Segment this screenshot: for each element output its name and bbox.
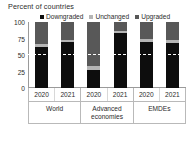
bar-segment-upgraded	[35, 22, 48, 44]
stacked-bar	[87, 22, 100, 88]
bar-segment-unchanged	[35, 44, 48, 47]
bar-segment-unchanged	[166, 40, 179, 43]
stacked-bar	[166, 22, 179, 88]
x-label-ae-2021: 2021	[107, 88, 133, 101]
bar-segment-upgraded	[114, 22, 127, 31]
legend-item-upgraded: Upgraded	[135, 13, 170, 20]
x-label-ae-2020: 2020	[80, 88, 106, 101]
y-tick-50: 50	[18, 52, 25, 59]
chart-legend: Downgraded Unchanged Upgraded	[40, 13, 170, 20]
stacked-bar	[114, 22, 127, 88]
bar-segment-unchanged	[114, 31, 127, 34]
plot-area	[28, 22, 186, 88]
legend-item-downgraded: Downgraded	[40, 13, 83, 20]
stacked-bar	[35, 22, 48, 88]
stacked-bar	[140, 22, 153, 88]
bar-segment-downgraded	[61, 42, 74, 88]
bar-segment-unchanged	[87, 66, 100, 70]
y-tick-0: 0	[21, 85, 25, 92]
y-tick-25: 25	[18, 68, 25, 75]
x-label-emdes-2020: 2020	[133, 88, 159, 101]
y-tick-100: 100	[14, 19, 25, 26]
x-axis-year-band: 2020 2021 2020 2021 2020 2021	[28, 88, 186, 102]
legend-label-upgraded: Upgraded	[141, 13, 170, 20]
group-label-emdes: EMDEs	[133, 102, 185, 123]
bar-segment-downgraded	[166, 43, 179, 88]
legend-item-unchanged: Unchanged	[89, 13, 129, 20]
bar-segment-upgraded	[87, 22, 100, 66]
square-marker-icon	[135, 15, 139, 19]
bar-segment-unchanged	[61, 40, 74, 42]
y-tick-75: 75	[18, 35, 25, 42]
legend-label-downgraded: Downgraded	[46, 13, 83, 20]
x-label-emdes-2021: 2021	[159, 88, 185, 101]
bar-segment-downgraded	[87, 70, 100, 88]
square-marker-icon	[40, 15, 44, 19]
chart-container: Percent of countries Downgraded Unchange…	[0, 0, 190, 141]
x-label-world-2021: 2021	[54, 88, 80, 101]
stacked-bar	[61, 22, 74, 88]
legend-label-unchanged: Unchanged	[95, 13, 129, 20]
x-axis-group-band: World Advanced economies EMDEs	[28, 102, 186, 124]
reference-line-50	[28, 54, 186, 55]
bar-segment-upgraded	[166, 22, 179, 40]
bar-segment-unchanged	[140, 39, 153, 42]
square-marker-icon	[89, 15, 93, 19]
bar-segment-upgraded	[61, 22, 74, 40]
group-label-world: World	[29, 102, 80, 123]
group-label-advanced-economies: Advanced economies	[80, 102, 132, 123]
bar-segment-downgraded	[114, 33, 127, 88]
chart-title: Percent of countries	[8, 2, 74, 11]
bar-segment-upgraded	[140, 22, 153, 39]
y-axis-labels: 100 75 50 25 0	[0, 22, 25, 88]
bar-series-layer	[28, 22, 186, 88]
bar-segment-downgraded	[140, 42, 153, 88]
x-label-world-2020: 2020	[29, 88, 54, 101]
